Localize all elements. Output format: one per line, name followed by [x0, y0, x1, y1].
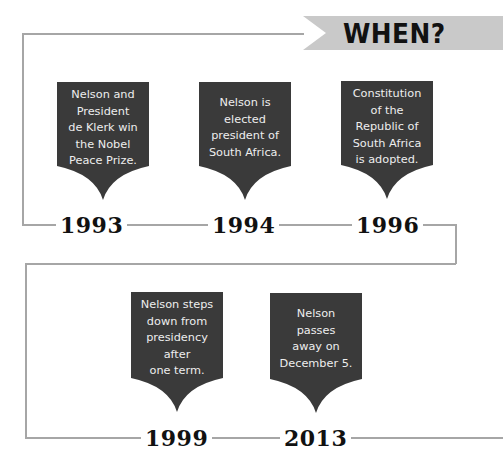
event-card-1996: Constitution of the Republic of South Af… — [341, 81, 433, 201]
event-description: Nelson and President de Klerk win the No… — [57, 87, 149, 170]
event-card-1994: Nelson is elected president of South Afr… — [199, 82, 291, 202]
timeline-top-line — [22, 33, 304, 35]
timeline-left-line-row1 — [22, 33, 24, 225]
timeline-right-connector — [455, 224, 457, 264]
timeline-axis-row2 — [25, 437, 503, 439]
year-label-2013: 2013 — [280, 426, 351, 450]
event-card-2013: Nelson passes away on December 5. — [270, 293, 362, 413]
year-label-1999: 1999 — [141, 426, 212, 450]
year-label-1994: 1994 — [208, 213, 279, 237]
event-description: Nelson passes away on December 5. — [270, 306, 362, 372]
event-description: Nelson is elected president of South Afr… — [199, 95, 291, 161]
event-description: Constitution of the Republic of South Af… — [341, 86, 433, 169]
year-label-1996: 1996 — [352, 213, 423, 237]
timeline-middle-line — [25, 263, 456, 265]
event-description: Nelson steps down from presidency after … — [131, 297, 223, 380]
timeline-left-line-row2 — [25, 263, 27, 438]
event-card-1999: Nelson steps down from presidency after … — [131, 292, 223, 412]
header-banner: WHEN? — [303, 16, 503, 50]
year-label-1993: 1993 — [56, 213, 127, 237]
page-title: WHEN? — [343, 17, 446, 51]
event-card-1993: Nelson and President de Klerk win the No… — [57, 82, 149, 202]
